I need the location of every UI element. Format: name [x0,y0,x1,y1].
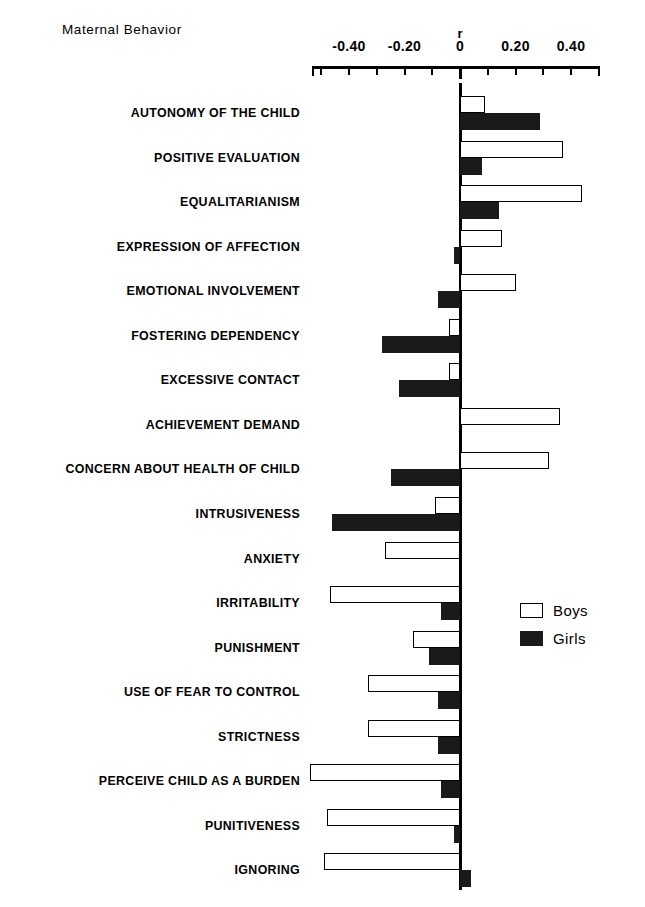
bar-row: EXCESSIVE CONTACT [0,363,645,397]
legend-swatch-girls-icon [520,631,543,646]
bar-row: FOSTERING DEPENDENCY [0,319,645,353]
bar-girls [438,692,460,709]
axis-tick-label: -0.20 [388,38,421,54]
category-label: FOSTERING DEPENDENCY [10,330,300,342]
axis-tick [376,66,378,75]
axis-endcap [312,66,314,76]
bar-row: PUNITIVENESS [0,809,645,843]
category-label: POSITIVE EVALUATION [10,152,300,164]
bar-row: AUTONOMY OF THE CHILD [0,96,645,130]
bar-row: ACHIEVEMENT DEMAND [0,408,645,442]
category-label: USE OF FEAR TO CONTROL [10,686,300,698]
legend: Boys Girls [520,596,588,652]
bar-boys [368,675,460,692]
axis-tick [487,66,489,75]
axis-tick-label: -0.40 [332,38,365,54]
bar-girls [438,291,460,308]
category-label: EMOTIONAL INVOLVEMENT [10,285,300,297]
category-label: PUNISHMENT [10,642,300,654]
bar-row: EXPRESSION OF AFFECTION [0,230,645,264]
category-label: PERCEIVE CHILD AS A BURDEN [10,775,300,787]
bar-girls [429,648,460,665]
category-label: CONCERN ABOUT HEALTH OF CHILD [10,463,300,475]
bar-boys [460,452,549,469]
bar-row: PERCEIVE CHILD AS A BURDEN [0,764,645,798]
bar-boys [327,809,460,826]
bar-row: STRICTNESS [0,720,645,754]
axis-tick [348,66,350,75]
axis-line [312,66,600,69]
bar-girls [399,380,460,397]
axis-tick [404,66,406,75]
bar-boys [310,764,460,781]
bar-boys [324,853,460,870]
bar-girls [332,514,460,531]
legend-swatch-boys-icon [520,603,543,618]
legend-item-girls: Girls [520,624,588,652]
bar-girls [454,247,460,264]
axis-tick-label: 0 [456,38,464,54]
bar-boys [368,720,460,737]
chart-figure: Maternal Behavior r -0.40-0.2000.200.40 … [0,0,645,907]
axis-tick-label: 0.40 [557,38,585,54]
bar-row: CONCERN ABOUT HEALTH OF CHILD [0,452,645,486]
category-label: INTRUSIVENESS [10,508,300,520]
bar-row: USE OF FEAR TO CONTROL [0,675,645,709]
bar-boys [460,230,502,247]
category-label: EQUALITARIANISM [10,196,300,208]
axis-tick [598,66,600,75]
bar-girls [460,870,471,887]
category-label: PUNITIVENESS [10,820,300,832]
bar-girls [460,113,540,130]
page-title: Maternal Behavior [62,22,182,37]
category-label: EXPRESSION OF AFFECTION [10,241,300,253]
axis-tick [431,66,433,75]
bar-girls [441,781,460,798]
bar-row: POSITIVE EVALUATION [0,141,645,175]
category-label: ACHIEVEMENT DEMAND [10,419,300,431]
bar-boys [449,319,460,336]
axis-endcap [598,66,600,76]
category-label: AUTONOMY OF THE CHILD [10,107,300,119]
bar-boys [460,408,560,425]
bar-girls [441,603,460,620]
axis-unit-label: r [457,26,462,41]
bar-boys [385,542,460,559]
legend-label-boys: Boys [553,602,588,619]
legend-item-boys: Boys [520,596,588,624]
axis-tick [515,66,517,75]
bar-boys [435,497,460,514]
axis-tick [542,66,544,75]
bar-girls [460,158,482,175]
bar-boys [413,631,460,648]
legend-label-girls: Girls [553,630,586,647]
axis-tick-label: 0.20 [501,38,529,54]
bar-girls [460,202,499,219]
axis-tick [320,66,322,75]
page-edge [0,898,645,907]
axis-tick [570,66,572,75]
bar-girls [454,826,460,843]
bar-boys [449,363,460,380]
bar-row: IGNORING [0,853,645,887]
bar-boys [460,96,485,113]
bar-boys [460,141,563,158]
category-label: EXCESSIVE CONTACT [10,374,300,386]
bar-row: INTRUSIVENESS [0,497,645,531]
bar-boys [330,586,460,603]
category-label: IRRITABILITY [10,597,300,609]
bar-boys [460,274,516,291]
bar-row: ANXIETY [0,542,645,576]
category-label: ANXIETY [10,553,300,565]
bar-girls [438,737,460,754]
category-label: STRICTNESS [10,731,300,743]
bar-row: EMOTIONAL INVOLVEMENT [0,274,645,308]
bar-row: EQUALITARIANISM [0,185,645,219]
bar-girls [382,336,460,353]
bar-girls [391,469,460,486]
axis-tick [459,66,462,79]
category-label: IGNORING [10,864,300,876]
bar-boys [460,185,582,202]
